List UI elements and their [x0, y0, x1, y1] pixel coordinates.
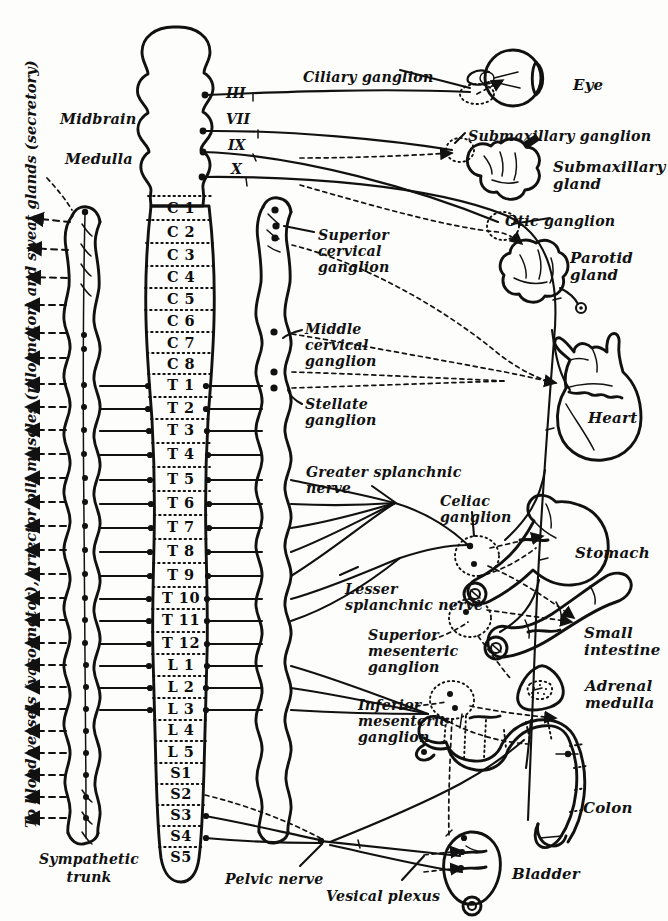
- cord-segment-s4: S4: [146, 827, 216, 844]
- label-colon: Colon: [583, 800, 633, 817]
- cord-segment-s1: S1: [146, 764, 216, 781]
- cord-segment-l3: L 3: [146, 700, 216, 717]
- cord-segment-t7: T 7: [146, 518, 216, 535]
- cord-segment-c6: C 6: [146, 312, 216, 329]
- cord-segment-c1: C 1: [146, 199, 216, 216]
- label-adrenal-medulla: Adrenal medulla: [585, 678, 654, 712]
- cord-segment-t10: T 10: [146, 589, 216, 606]
- cord-segment-c4: C 4: [146, 268, 216, 285]
- cord-segment-t3: T 3: [146, 421, 216, 438]
- cord-segment-c5: C 5: [146, 290, 216, 307]
- label-stellate-ganglion: Stellate ganglion: [305, 397, 377, 429]
- label-superior-mesenteric-ganglion: Superior mesenteric ganglion: [368, 628, 458, 676]
- cranial-nerve-iii: III: [226, 85, 246, 101]
- cord-segment-l5: L 5: [146, 743, 216, 760]
- cranial-nerve-ix: IX: [228, 137, 245, 153]
- cord-segment-t8: T 8: [146, 542, 216, 559]
- cord-segment-t12: T 12: [146, 634, 216, 651]
- cord-segment-t2: T 2: [146, 399, 216, 416]
- label-effector-targets: To blood vessels (vaso-motor), arrector …: [22, 60, 39, 828]
- label-pelvic-nerve: Pelvic nerve: [225, 872, 323, 888]
- label-sympathetic-trunk-line2: trunk: [34, 870, 144, 886]
- label-middle-cervical-ganglion: Middle cervical ganglion: [305, 322, 377, 370]
- left-sympathetic-trunk: [64, 207, 100, 844]
- label-small-intestine: Small intestine: [584, 625, 660, 659]
- label-inferior-mesenteric-ganglion: Inferior mesenteric ganglion: [358, 698, 448, 746]
- label-superior-cervical-ganglion: Superior cervical ganglion: [318, 228, 390, 276]
- label-sympathetic-trunk-line1: Sympathetic: [34, 852, 144, 868]
- label-heart: Heart: [588, 410, 637, 427]
- label-bladder: Bladder: [512, 866, 580, 883]
- label-vesical-plexus: Vesical plexus: [326, 889, 440, 905]
- cord-segment-c8: C 8: [146, 355, 216, 372]
- right-sympathetic-chain: [256, 198, 314, 843]
- cranial-nerve-vii: VII: [226, 111, 250, 127]
- cord-segment-c7: C 7: [146, 334, 216, 351]
- label-lesser-splanchnic-nerve: Lesser splanchnic nerve: [345, 582, 483, 614]
- cord-segment-s2: S2: [146, 785, 216, 802]
- label-medulla: Medulla: [65, 151, 133, 167]
- heart-drawing: [555, 333, 641, 460]
- cord-segment-l2: L 2: [146, 678, 216, 695]
- label-celiac-ganglion: Celiac ganglion: [440, 494, 512, 526]
- label-otic-ganglion: Otic ganglion: [505, 214, 615, 230]
- label-submaxillary-gland: Submaxillary gland: [553, 159, 666, 193]
- cord-segment-l1: L 1: [146, 656, 216, 673]
- cord-segment-c3: C 3: [146, 246, 216, 263]
- prevertebral-ganglia: [400, 512, 499, 719]
- cord-segment-t6: T 6: [146, 494, 216, 511]
- cord-segment-t4: T 4: [146, 445, 216, 462]
- cord-segment-c2: C 2: [146, 223, 216, 240]
- label-greater-splanchnic-nerve: Greater splanchnic nerve: [306, 465, 462, 497]
- label-stomach: Stomach: [575, 545, 650, 562]
- label-parotid-gland: Parotid gland: [570, 250, 633, 284]
- cord-segment-t1: T 1: [146, 376, 216, 393]
- cord-segment-s5: S5: [146, 848, 216, 865]
- autonomic-nervous-system-figure: .k{fill:none;stroke:#111;stroke-width:2.…: [0, 0, 668, 921]
- cranial-nerve-x: X: [231, 161, 242, 177]
- cord-segment-t5: T 5: [146, 470, 216, 487]
- label-eye: Eye: [573, 77, 603, 94]
- label-midbrain: Midbrain: [60, 111, 137, 127]
- label-submaxillary-ganglion: Submaxillary ganglion: [468, 129, 651, 145]
- cord-segment-l4: L 4: [146, 721, 216, 738]
- bladder-drawing: [444, 832, 501, 915]
- label-ciliary-ganglion: Ciliary ganglion: [303, 70, 433, 86]
- cord-segment-s3: S3: [146, 806, 216, 823]
- eye-drawing: [468, 50, 543, 106]
- cord-segment-t9: T 9: [146, 566, 216, 583]
- cord-segment-t11: T 11: [146, 611, 216, 628]
